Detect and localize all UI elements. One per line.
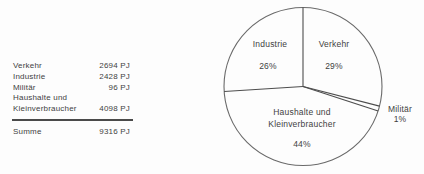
pie-percent-haushalte: 44%	[293, 139, 311, 149]
table-row: Industrie 2428 PJ	[13, 72, 130, 83]
row-value: 4098 PJ	[99, 104, 130, 115]
summary-value: 9316 PJ	[99, 127, 130, 136]
pie-label-haushalte-line2: Kleinverbraucher	[268, 118, 335, 130]
pie-percent-verkehr: 29%	[325, 61, 343, 71]
pie-label-militaer-name: Militär	[388, 104, 412, 114]
row-label: Verkehr	[13, 61, 42, 72]
figure-energy-consumption: Verkehr 2694 PJ Industrie 2428 PJ Militä…	[0, 0, 424, 174]
table-row: Militär 96 PJ	[13, 83, 130, 94]
row-value: 96 PJ	[109, 83, 130, 94]
table-row: Haushalte und	[13, 93, 130, 104]
row-value: 2694 PJ	[99, 61, 130, 72]
pie-label-industrie: Industrie	[253, 39, 287, 49]
row-value: 2428 PJ	[99, 72, 130, 83]
row-label: Militär	[13, 83, 36, 94]
row-label: Kleinverbraucher	[13, 104, 77, 115]
pie-label-verkehr: Verkehr	[319, 39, 350, 49]
pie-label-militaer: Militär 1%	[388, 104, 412, 124]
table-row: Verkehr 2694 PJ	[13, 61, 130, 72]
table-row: Kleinverbraucher 4098 PJ	[13, 104, 130, 115]
data-table: Verkehr 2694 PJ Industrie 2428 PJ Militä…	[13, 61, 130, 115]
row-label: Haushalte und	[13, 93, 67, 104]
table-sum-rule	[12, 119, 133, 121]
summary-label: Summe	[13, 127, 42, 136]
row-label: Industrie	[13, 72, 45, 83]
pie-percent-militaer: 1%	[388, 114, 412, 124]
table-summary-row: Summe 9316 PJ	[13, 127, 130, 136]
pie-label-haushalte-line1: Haushalte und	[268, 107, 335, 119]
pie-percent-industrie: 26%	[259, 61, 277, 71]
pie-label-haushalte: Haushalte und Kleinverbraucher	[268, 107, 335, 130]
